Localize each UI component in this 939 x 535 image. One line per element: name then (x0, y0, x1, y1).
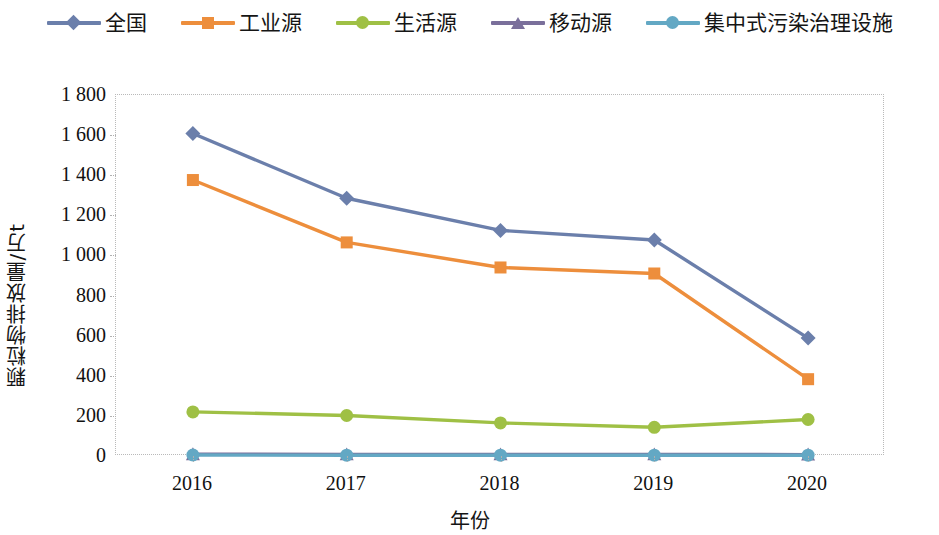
legend-key (336, 14, 390, 32)
x-axis-tick-mark (193, 456, 194, 462)
legend-marker-triangle-icon (511, 17, 525, 29)
series-3 (186, 405, 814, 433)
x-axis-tick-label: 2019 (608, 473, 698, 493)
x-axis-title: 年份 (0, 505, 939, 534)
y-axis-tick-mark (110, 336, 116, 337)
data-point-marker (802, 373, 814, 385)
plot-wrapper: 颗粒物排放量/万t 1 8001 6001 4001 2001 00080060… (0, 40, 939, 535)
legend-key (491, 14, 545, 32)
legend-item-2[interactable]: 工业源 (181, 13, 302, 34)
y-axis-tick-mark (110, 296, 116, 297)
legend-key (646, 14, 700, 32)
x-axis-tick-label: 2020 (762, 473, 852, 493)
legend-item-label: 全国 (101, 13, 147, 34)
x-axis-tick-mark (808, 456, 809, 462)
legend-item-label: 移动源 (545, 13, 612, 34)
data-point-marker (187, 174, 199, 186)
legend-item-label: 工业源 (235, 13, 302, 34)
legend-key (181, 14, 235, 32)
legend-item-1[interactable]: 全国 (47, 13, 147, 34)
data-point-marker (186, 405, 199, 418)
data-point-marker (495, 261, 507, 273)
legend-item-label: 生活源 (390, 13, 457, 34)
data-point-marker (185, 126, 200, 141)
y-axis-tick-mark (110, 215, 116, 216)
x-axis-tick-mark (347, 456, 348, 462)
data-point-marker (648, 267, 660, 279)
data-point-marker (648, 421, 661, 434)
data-point-marker (341, 236, 353, 248)
legend-marker-circle-icon (666, 16, 679, 29)
data-point-marker (339, 191, 354, 206)
legend-item-label: 集中式污染治理设施 (700, 13, 893, 34)
data-point-marker (493, 223, 508, 238)
x-axis-tick-mark (501, 456, 502, 462)
y-axis-tick-mark (110, 416, 116, 417)
x-axis-tick-label: 2016 (147, 473, 237, 493)
series-canvas (116, 95, 885, 456)
legend-item-5[interactable]: 集中式污染治理设施 (646, 13, 893, 34)
particulate-emissions-line-chart: 全国工业源生活源移动源集中式污染治理设施 颗粒物排放量/万t 1 8001 60… (0, 0, 939, 535)
legend-item-3[interactable]: 生活源 (336, 13, 457, 34)
y-axis-tick-mark (110, 135, 116, 136)
legend-marker-circle-icon (356, 16, 369, 29)
x-axis-tick-mark (654, 456, 655, 462)
y-axis-tick-mark (110, 175, 116, 176)
legend-marker-square-icon (202, 17, 214, 29)
x-axis-tick-label: 2018 (455, 473, 545, 493)
y-axis-tick-mark (110, 376, 116, 377)
data-point-marker (494, 416, 507, 429)
chart-legend: 全国工业源生活源移动源集中式污染治理设施 (0, 6, 939, 40)
series-1 (185, 126, 815, 346)
legend-item-4[interactable]: 移动源 (491, 13, 612, 34)
series-2 (187, 174, 814, 385)
legend-marker-diamond-icon (65, 15, 81, 31)
data-point-marker (340, 409, 353, 422)
legend-key (47, 14, 101, 32)
x-axis-tick-label: 2017 (301, 473, 391, 493)
y-axis-tick-mark (110, 255, 116, 256)
data-point-marker (802, 413, 815, 426)
plot-area (115, 94, 884, 455)
